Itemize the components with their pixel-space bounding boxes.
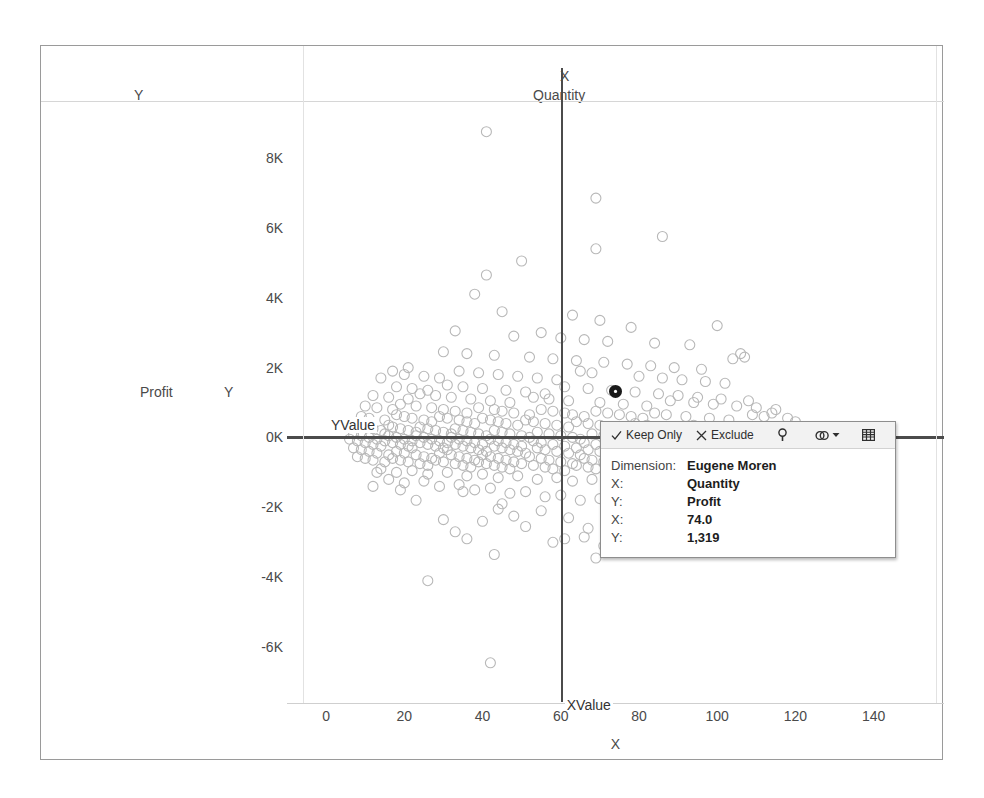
mark-circle[interactable] [564, 396, 574, 406]
mark-circle[interactable] [528, 392, 538, 402]
mark-circle[interactable] [427, 403, 437, 413]
mark-circle[interactable] [368, 391, 378, 401]
mark-circle[interactable] [438, 347, 448, 357]
mark-circle[interactable] [462, 471, 472, 481]
mark-circle[interactable] [509, 511, 519, 521]
mark-circle[interactable] [521, 487, 531, 497]
mark-circle[interactable] [685, 340, 695, 350]
mark-circle[interactable] [442, 380, 452, 390]
mark-circle[interactable] [501, 385, 511, 395]
mark-circle[interactable] [493, 370, 503, 380]
mark-circle[interactable] [548, 537, 558, 547]
mark-circle[interactable] [384, 392, 394, 402]
exclude-button[interactable]: Exclude [696, 428, 754, 442]
mark-circle[interactable] [485, 658, 495, 668]
mark-circle[interactable] [614, 410, 624, 420]
selected-mark-group[interactable] [611, 386, 621, 396]
mark-circle[interactable] [509, 408, 519, 418]
mark-circle[interactable] [669, 363, 679, 373]
mark-circle[interactable] [481, 127, 491, 137]
mark-circle[interactable] [485, 483, 495, 493]
mark-circle[interactable] [532, 373, 542, 383]
keep-only-button[interactable]: Keep Only [611, 428, 682, 442]
mark-circle[interactable] [446, 392, 456, 402]
mark-circle[interactable] [521, 522, 531, 532]
mark-circle[interactable] [442, 467, 452, 477]
mark-circle[interactable] [548, 354, 558, 364]
mark-circle[interactable] [712, 321, 722, 331]
mark-circle[interactable] [489, 550, 499, 560]
mark-circle[interactable] [450, 527, 460, 537]
mark-circle[interactable] [431, 391, 441, 401]
mark-circle[interactable] [470, 485, 480, 495]
mark-circle[interactable] [372, 403, 382, 413]
mark-circle[interactable] [564, 513, 574, 523]
mark-circle[interactable] [423, 576, 433, 586]
mark-circle[interactable] [376, 373, 386, 383]
mark-circle[interactable] [458, 382, 468, 392]
mark-circle[interactable] [536, 506, 546, 516]
mark-circle[interactable] [481, 270, 491, 280]
scatter-marks[interactable] [287, 102, 944, 703]
mark-circle[interactable] [493, 473, 503, 483]
mark-circle[interactable] [548, 406, 558, 416]
mark-circle[interactable] [450, 326, 460, 336]
mark-circle[interactable] [513, 471, 523, 481]
mark-circle[interactable] [528, 460, 538, 470]
mark-circle[interactable] [478, 384, 488, 394]
mark-circle[interactable] [665, 396, 675, 406]
mark-circle[interactable] [599, 357, 609, 367]
mark-circle[interactable] [478, 469, 488, 479]
mark-circle[interactable] [646, 361, 656, 371]
mark-circle[interactable] [454, 366, 464, 376]
mark-circle[interactable] [497, 307, 507, 317]
mark-circle[interactable] [419, 371, 429, 381]
mark-circle[interactable] [579, 335, 589, 345]
mark-circle[interactable] [513, 371, 523, 381]
mark-circle[interactable] [708, 399, 718, 409]
mark-circle[interactable] [575, 366, 585, 376]
mark-circle[interactable] [411, 401, 421, 411]
mark-circle[interactable] [392, 382, 402, 392]
mark-circle[interactable] [681, 412, 691, 422]
mark-circle[interactable] [626, 322, 636, 332]
mark-circle[interactable] [568, 310, 578, 320]
mark-circle[interactable] [677, 375, 687, 385]
mark-circle[interactable] [587, 474, 597, 484]
mark-circle[interactable] [462, 349, 472, 359]
mark-circle[interactable] [489, 350, 499, 360]
mark-circle[interactable] [603, 336, 613, 346]
mark-circle[interactable] [395, 399, 405, 409]
mark-circle[interactable] [618, 399, 628, 409]
mark-circle[interactable] [525, 352, 535, 362]
mark-circle[interactable] [571, 460, 581, 470]
plot-panel[interactable]: YValue XValue [287, 102, 944, 703]
mark-circle[interactable] [532, 474, 542, 484]
mark-circle[interactable] [505, 398, 515, 408]
mark-circle[interactable] [650, 408, 660, 418]
mark-circle[interactable] [732, 401, 742, 411]
group-members-button[interactable] [815, 429, 840, 442]
mark-circle[interactable] [474, 368, 484, 378]
mark-circle[interactable] [634, 371, 644, 381]
mark-circle[interactable] [474, 403, 484, 413]
mark-circle[interactable] [603, 408, 613, 418]
view-data-button[interactable] [862, 429, 875, 441]
mark-circle[interactable] [622, 359, 632, 369]
mark-circle[interactable] [388, 366, 398, 376]
mark-circle[interactable] [470, 289, 480, 299]
mark-circle[interactable] [661, 410, 671, 420]
mark-circle[interactable] [697, 364, 707, 374]
mark-circle[interactable] [657, 373, 667, 383]
mark-circle[interactable] [700, 377, 710, 387]
mark-circle[interactable] [509, 331, 519, 341]
mark-circle[interactable] [462, 534, 472, 544]
mark-circle[interactable] [536, 328, 546, 338]
mark-circle[interactable] [591, 406, 601, 416]
mark-circle[interactable] [630, 387, 640, 397]
mark-circle[interactable] [657, 232, 667, 242]
mark-circle[interactable] [360, 401, 370, 411]
mark-circle[interactable] [583, 384, 593, 394]
mark-circle[interactable] [435, 481, 445, 491]
mark-circle[interactable] [654, 389, 664, 399]
